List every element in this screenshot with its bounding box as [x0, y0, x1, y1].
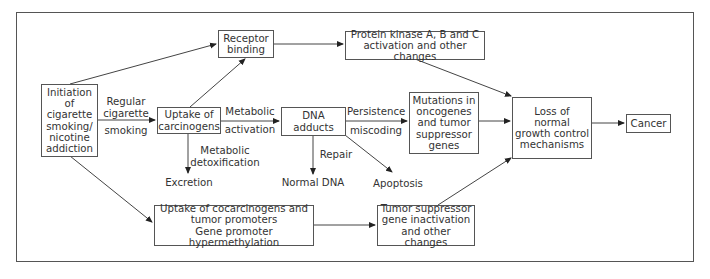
node-apoptosis: Apoptosis	[370, 178, 426, 190]
node-loss-growth-control: Loss of normal growth control mechanisms	[512, 97, 592, 159]
edge-label-regular-cigarette: Regular cigarette	[100, 96, 152, 119]
edge-label-miscoding: miscoding	[347, 125, 405, 137]
edge-label-activation: activation	[222, 124, 278, 136]
edge-label-metabolic: Metabolic	[222, 106, 278, 118]
arrow-kinase-to-loss	[415, 59, 511, 96]
node-cancer: Cancer	[626, 114, 671, 133]
node-dna-adducts: DNA adducts	[281, 107, 346, 136]
node-normal-dna: Normal DNA	[280, 177, 346, 189]
node-uptake-cocarcinogens: Uptake of cocarcinogens and tumor promot…	[154, 205, 314, 246]
node-uptake-carcinogens: Uptake of carcinogens	[157, 107, 221, 134]
edge-label-repair: Repair	[316, 149, 356, 161]
node-tumor-suppressor: Tumor suppressor gene inactivation and o…	[377, 205, 475, 246]
edge-label-smoking: smoking	[100, 125, 152, 137]
node-excretion: Excretion	[163, 177, 215, 189]
edge-label-persistence: Persistence	[347, 106, 405, 118]
node-protein-kinase: Protein kinase A, B and C activation and…	[345, 31, 485, 60]
arrow-initiation-to-receptor	[70, 44, 216, 84]
arrow-tumor-to-loss	[438, 158, 511, 205]
arrow-uptake-to-receptor	[190, 59, 245, 107]
edge-label-metabolic-detoxification: Metabolic detoxification	[190, 145, 260, 168]
node-initiation: Initiation of cigarette smoking/ nicotin…	[41, 84, 98, 157]
arrow-initiation-to-cocarcinogens	[70, 156, 152, 222]
node-mutations: Mutations in oncogenes and tumor suppres…	[409, 92, 479, 154]
node-receptor-binding: Receptor binding	[218, 30, 274, 58]
